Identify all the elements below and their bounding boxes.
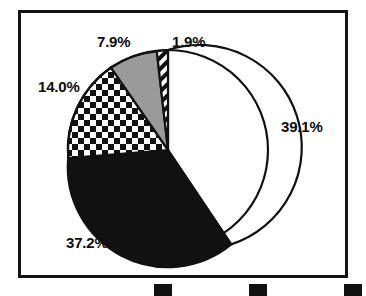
pie-label-1-9: 1.9% xyxy=(172,33,205,50)
pie-label-14-0: 14.0% xyxy=(38,78,80,95)
pie-label-39-1: 39.1% xyxy=(281,118,323,135)
legend-swatch-3[interactable] xyxy=(344,284,362,296)
legend-swatch-1[interactable] xyxy=(154,284,172,296)
legend-swatch-2[interactable] xyxy=(249,284,267,296)
pie-chart-figure: 39.1% 37.2% 14.0% 7.9% 1.9% xyxy=(0,0,366,296)
pie-label-37-2: 37.2% xyxy=(66,234,108,251)
pie-label-7-9: 7.9% xyxy=(97,33,130,50)
